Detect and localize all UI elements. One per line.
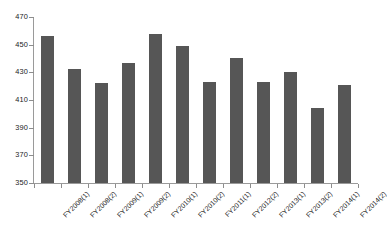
bar	[176, 46, 190, 183]
x-axis-tick-label: FY2010(1)	[169, 190, 198, 219]
x-axis-tick	[34, 184, 35, 188]
bar	[95, 83, 109, 183]
bar	[68, 69, 82, 183]
x-axis-tick-label: FY2014(2)	[358, 190, 387, 219]
x-axis-tick	[61, 184, 62, 188]
bar	[311, 108, 325, 183]
x-axis-tick	[304, 184, 305, 188]
x-axis-tick	[223, 184, 224, 188]
x-axis-tick-label: FY2014(1)	[331, 190, 360, 219]
y-axis-tick-label: 390	[0, 124, 28, 131]
y-axis-tick-label: 370	[0, 151, 28, 158]
x-axis-tick	[358, 184, 359, 188]
plot-area	[34, 17, 358, 183]
bar	[203, 82, 217, 183]
y-axis-tick-label: 470	[0, 13, 28, 20]
x-axis-tick	[277, 184, 278, 188]
bar	[230, 58, 244, 183]
bar	[338, 85, 352, 183]
bar	[284, 72, 298, 183]
x-axis-tick	[88, 184, 89, 188]
x-axis-tick	[142, 184, 143, 188]
bar	[122, 63, 136, 183]
y-axis-tick-label: 450	[0, 41, 28, 48]
x-axis-tick	[169, 184, 170, 188]
x-axis-tick	[115, 184, 116, 188]
x-axis-tick-label: FY2012(2)	[250, 190, 279, 219]
x-axis-tick	[250, 184, 251, 188]
y-axis-tick-label: 410	[0, 96, 28, 103]
x-axis-tick-label: FY2011(1)	[223, 190, 251, 218]
x-axis-tick-label: FY2008(2)	[88, 190, 117, 219]
x-axis-tick-label: FY2010(2)	[196, 190, 225, 219]
x-axis-tick-label: FY2009(1)	[115, 190, 144, 219]
x-axis-tick-label: FY2009(2)	[142, 190, 171, 219]
y-axis-tick-label: 350	[0, 179, 28, 186]
x-axis-tick-label: FY2008(1)	[61, 190, 90, 219]
x-axis-tick-label: FY2013(2)	[304, 190, 333, 219]
x-axis-tick	[196, 184, 197, 188]
bar	[41, 36, 55, 183]
bar	[257, 82, 271, 183]
x-axis-tick	[331, 184, 332, 188]
y-axis-tick-label: 430	[0, 68, 28, 75]
bar	[149, 34, 163, 183]
x-axis-tick-label: FY2013(1)	[277, 190, 306, 219]
